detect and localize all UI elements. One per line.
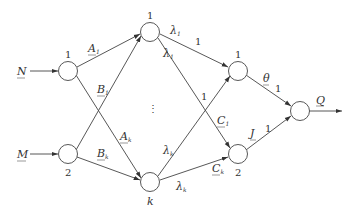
edge-label-ak: Ak bbox=[119, 130, 132, 143]
svg-text:λ1: λ1 bbox=[162, 47, 174, 60]
svg-text:A1: A1 bbox=[87, 42, 100, 55]
svg-text:θ: θ bbox=[263, 72, 270, 85]
edge-label-a1: A1 bbox=[87, 42, 100, 55]
edge-weight-hk-o1: 1 bbox=[201, 91, 207, 102]
svg-text:Ak: Ak bbox=[119, 130, 132, 143]
svg-text:Ck: Ck bbox=[212, 162, 224, 175]
node-final bbox=[291, 102, 310, 121]
node-hidden-1 bbox=[141, 23, 160, 42]
svg-text:λ1: λ1 bbox=[169, 24, 181, 37]
network-diagram: 1 2 1 k 1 2 ⋮ N M Q A1 B1 Ak Bk λ1 λ1 λk… bbox=[0, 0, 356, 216]
edge-label-lambda1-bottom: λ1 bbox=[162, 47, 174, 60]
edge-label-j: J bbox=[248, 127, 256, 140]
edge-label-ck: Ck bbox=[212, 162, 224, 175]
node-hidden-k bbox=[141, 173, 160, 192]
node-output-1-label: 1 bbox=[235, 49, 241, 60]
ellipsis: ⋮ bbox=[148, 103, 158, 114]
edge-label-lambda1-top: λ1 bbox=[169, 24, 181, 37]
edge-in2-hk bbox=[77, 157, 140, 180]
svg-text:C1: C1 bbox=[217, 114, 229, 127]
node-input-1-label: 1 bbox=[65, 49, 71, 60]
edge-weight-h1-o1: 1 bbox=[195, 36, 201, 47]
edge-weight-o1-out: 1 bbox=[275, 83, 281, 94]
node-output-2 bbox=[229, 145, 248, 164]
svg-text:λk: λk bbox=[162, 144, 174, 157]
node-hidden-k-label: k bbox=[147, 195, 154, 208]
node-input-2 bbox=[59, 145, 78, 164]
output-label-q: Q bbox=[316, 94, 325, 107]
svg-text:B1: B1 bbox=[96, 83, 109, 96]
node-hidden-1-label: 1 bbox=[147, 10, 153, 21]
svg-text:Bk: Bk bbox=[96, 147, 109, 160]
edge-label-bk: Bk bbox=[96, 147, 109, 160]
edge-label-c1: C1 bbox=[217, 114, 229, 127]
node-output-1 bbox=[229, 62, 248, 81]
edge-h1-o1 bbox=[160, 34, 228, 67]
edge-label-b1: B1 bbox=[96, 83, 109, 96]
edge-label-lambdak-top: λk bbox=[162, 144, 174, 157]
node-output-2-label: 2 bbox=[235, 167, 241, 178]
svg-text:J: J bbox=[248, 127, 255, 140]
edge-in1-h1 bbox=[77, 34, 140, 67]
input-label-m: M bbox=[16, 148, 29, 161]
node-input-2-label: 2 bbox=[65, 167, 71, 178]
input-label-n: N bbox=[16, 65, 27, 78]
edge-label-theta: θ bbox=[263, 72, 270, 85]
edge-label-lambdak-bottom: λk bbox=[175, 180, 187, 193]
edge-weight-o2-out: 1 bbox=[265, 123, 271, 134]
svg-text:λk: λk bbox=[175, 180, 187, 193]
node-input-1 bbox=[59, 62, 78, 81]
